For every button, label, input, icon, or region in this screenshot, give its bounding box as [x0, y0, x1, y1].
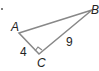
vertex-label-b: B: [91, 3, 99, 17]
triangle-diagram: A B C 4 9: [0, 0, 99, 71]
side-label-cb: 9: [66, 35, 73, 49]
bullet-dot: [1, 8, 3, 10]
vertex-label-c: C: [37, 56, 46, 70]
right-angle-marker: [35, 47, 42, 51]
side-label-ac: 4: [20, 45, 27, 59]
triangle-abc: [19, 10, 92, 54]
vertex-label-a: A: [10, 20, 19, 34]
